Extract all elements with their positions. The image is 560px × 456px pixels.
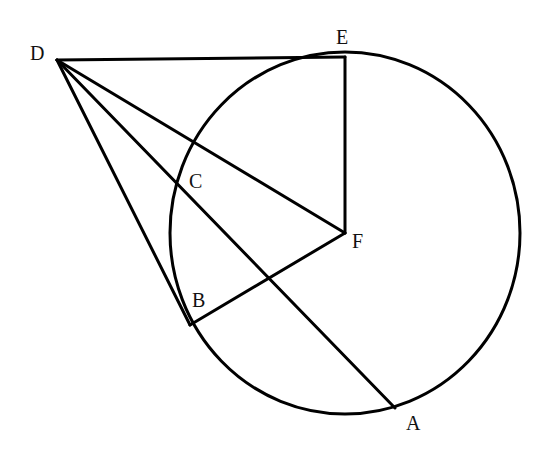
segment-fb xyxy=(190,233,345,325)
segment-de xyxy=(57,57,345,60)
point-label-c: C xyxy=(189,170,202,192)
point-label-f: F xyxy=(352,230,363,252)
point-label-a: A xyxy=(406,412,421,434)
point-label-d: D xyxy=(30,42,44,64)
geometry-figure: DECFBA xyxy=(0,0,560,456)
point-label-b: B xyxy=(192,289,205,311)
point-label-e: E xyxy=(336,26,348,48)
segments-group xyxy=(57,57,395,408)
